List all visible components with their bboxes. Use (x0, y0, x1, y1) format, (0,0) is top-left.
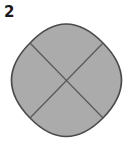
four-lobed-circle-diagram (0, 0, 132, 150)
